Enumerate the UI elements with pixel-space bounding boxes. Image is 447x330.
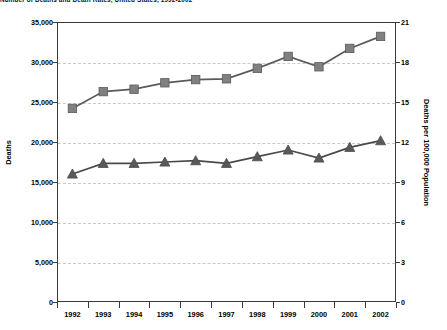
right-axis-tick-mark	[396, 182, 400, 183]
series-marker-square	[376, 32, 384, 40]
x-axis-tick-mark	[334, 302, 335, 308]
left-axis-tick-label: 25,000	[31, 98, 53, 107]
chart-title: Number of Deaths and Death Rates, United…	[0, 0, 447, 3]
x-axis-tick-mark	[180, 302, 181, 308]
series-marker-square	[161, 79, 169, 87]
series-marker-square	[253, 64, 261, 72]
left-axis-tick-label: 35,000	[31, 18, 53, 27]
series-line	[72, 36, 380, 108]
series-marker-square	[99, 87, 107, 95]
right-axis-tick-mark	[396, 102, 400, 103]
x-axis-tick-label: 1992	[64, 310, 80, 319]
x-axis-tick-mark	[396, 302, 397, 308]
series-marker-square	[222, 75, 230, 83]
series-marker-triangle	[283, 145, 293, 154]
series-marker-square	[191, 75, 199, 83]
x-axis-tick-mark	[365, 302, 366, 308]
right-axis-tick-label: 9	[401, 178, 405, 187]
x-axis-tick-label: 1999	[280, 310, 296, 319]
x-axis-tick-mark	[88, 302, 89, 308]
x-axis-tick-label: 1997	[218, 310, 234, 319]
x-axis-tick-marks	[57, 302, 396, 308]
right-axis-tick-mark	[396, 222, 400, 223]
left-axis-tick-label: 20,000	[31, 138, 53, 147]
x-axis-tick-label: 1998	[249, 310, 265, 319]
left-axis-tick-label: 15,000	[31, 178, 53, 187]
series-line	[72, 141, 380, 174]
right-axis-tick-label: 18	[401, 58, 409, 67]
x-axis-tick-mark	[211, 302, 212, 308]
right-axis-tick-label: 12	[401, 138, 409, 147]
series-marker-square	[68, 104, 76, 112]
series-marker-square	[346, 44, 354, 52]
x-axis-tick-mark	[57, 302, 58, 308]
left-axis-tick-label: 5,000	[35, 258, 53, 267]
x-axis-tick-label: 1995	[157, 310, 173, 319]
x-axis-tick-label: 1996	[187, 310, 203, 319]
x-axis-tick-mark	[149, 302, 150, 308]
x-axis-tick-label: 1994	[126, 310, 142, 319]
right-axis-tick-label: 15	[401, 98, 409, 107]
x-axis-tick-mark	[119, 302, 120, 308]
right-axis-tick-mark	[396, 262, 400, 263]
chart-container: Number of Deaths and Death Rates, United…	[0, 0, 447, 330]
right-axis-tick-label: 3	[401, 258, 405, 267]
series-marker-triangle	[376, 136, 386, 145]
right-axis-tick-label: 0	[401, 298, 405, 307]
x-axis-tick-mark	[242, 302, 243, 308]
x-axis-tick-label: 2001	[342, 310, 358, 319]
right-axis-title: Deaths per 100,000 Population	[422, 78, 431, 228]
right-axis-tick-mark	[396, 142, 400, 143]
series-marker-square	[284, 52, 292, 60]
x-axis-tick-label: 2002	[372, 310, 388, 319]
left-axis-title: Deaths	[4, 123, 13, 183]
x-axis-tick-mark	[304, 302, 305, 308]
left-axis-tick-label: 10,000	[31, 218, 53, 227]
right-axis-tick-mark	[396, 22, 400, 23]
right-axis-tick-label: 6	[401, 218, 405, 227]
series-marker-square	[130, 85, 138, 93]
left-axis-tick-label: 30,000	[31, 58, 53, 67]
series-plot	[57, 22, 396, 302]
x-axis-tick-label: 2000	[311, 310, 327, 319]
x-axis-tick-mark	[273, 302, 274, 308]
right-axis-tick-marks	[396, 22, 400, 302]
right-axis-tick-label: 21	[401, 18, 409, 27]
series-marker-square	[315, 63, 323, 71]
right-axis-tick-mark	[396, 62, 400, 63]
x-axis-tick-label: 1993	[95, 310, 111, 319]
x-axis-tick-labels: 1992199319941995199619971998199920002001…	[57, 310, 396, 324]
